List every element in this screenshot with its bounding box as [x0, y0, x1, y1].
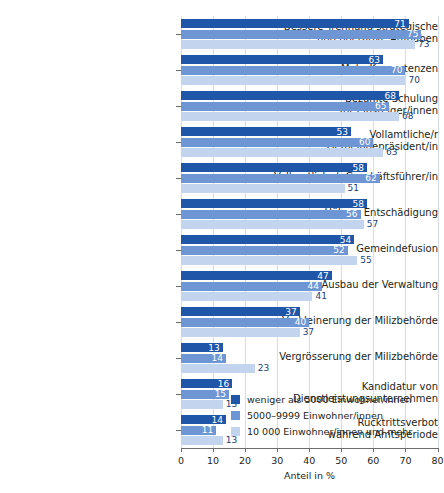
x-axis-tick: [309, 448, 310, 452]
legend-item[interactable]: weniger als 5000 Einwohner/innen: [231, 391, 412, 407]
bar: [181, 40, 415, 49]
bar: [181, 307, 300, 316]
bar-value-label: 60: [359, 138, 370, 147]
bar-value-label: 70: [408, 76, 419, 85]
bar: [181, 235, 354, 244]
bar-value-label: 58: [353, 200, 364, 209]
x-axis-tick: [181, 448, 182, 452]
bar-value-label: 23: [258, 364, 269, 373]
bar: [181, 55, 383, 64]
bar-value-label: 14: [211, 354, 222, 363]
plot-area: 7175736370706865685360635862515856575452…: [181, 16, 437, 448]
bar: [181, 19, 409, 28]
bar: [181, 436, 223, 445]
bar: [181, 400, 223, 409]
bar: [181, 127, 351, 136]
bar-value-label: 68: [385, 92, 396, 101]
legend-swatch-icon: [231, 395, 240, 404]
x-axis-tick: [277, 448, 278, 452]
bar-value-label: 14: [211, 416, 222, 425]
bar: [181, 138, 373, 147]
bar: [181, 364, 255, 373]
x-axis-title: Anteil in %: [181, 470, 438, 481]
legend-label: 5000–9999 Einwohner/innen: [247, 410, 383, 421]
bar: [181, 210, 361, 219]
bar-value-label: 51: [348, 184, 359, 193]
bar: [181, 246, 348, 255]
legend-item[interactable]: 10 000 Einwohner/innen und mehr: [231, 423, 412, 439]
legend: weniger als 5000 Einwohner/innen5000–999…: [231, 391, 412, 439]
bar-value-label: 54: [340, 236, 351, 245]
bar-value-label: 57: [367, 220, 378, 229]
bar-value-label: 41: [315, 292, 326, 301]
legend-swatch-icon: [231, 427, 240, 436]
bar-value-label: 53: [336, 128, 347, 137]
x-axis-tick: [438, 448, 439, 452]
bar-value-label: 56: [346, 210, 357, 219]
bar: [181, 112, 399, 121]
bar: [181, 199, 367, 208]
bar: [181, 328, 300, 337]
x-axis-tick-label: 40: [303, 455, 315, 466]
bar-value-label: 55: [360, 256, 371, 265]
x-axis-tick-label: 30: [271, 455, 283, 466]
bar: [181, 148, 383, 157]
bar-value-label: 58: [353, 164, 364, 173]
bar: [181, 292, 312, 301]
bar-value-label: 63: [386, 148, 397, 157]
bar: [181, 174, 380, 183]
bar-value-label: 52: [333, 246, 344, 255]
x-axis-tick: [373, 448, 374, 452]
bar-value-label: 13: [208, 344, 219, 353]
bar-value-label: 73: [418, 40, 429, 49]
bar-value-label: 68: [402, 112, 413, 121]
legend-swatch-icon: [231, 411, 240, 420]
bar-value-label: 11: [202, 426, 213, 435]
bar: [181, 66, 405, 75]
x-axis-tick-label: 50: [335, 455, 347, 466]
x-axis-tick-label: 0: [178, 455, 184, 466]
x-axis-tick-label: 10: [207, 455, 219, 466]
x-axis-tick-label: 60: [367, 455, 379, 466]
legend-item[interactable]: 5000–9999 Einwohner/innen: [231, 407, 412, 423]
bar: [181, 256, 357, 265]
x-axis-tick-label: 20: [239, 455, 251, 466]
legend-label: weniger als 5000 Einwohner/innen: [247, 394, 412, 405]
bar: [181, 318, 309, 327]
bar-value-label: 40: [295, 318, 306, 327]
x-axis-tick-label: 80: [431, 455, 443, 466]
bar: [181, 271, 332, 280]
bar-value-label: 71: [394, 20, 405, 29]
bar-value-label: 62: [365, 174, 376, 183]
bar: [181, 102, 389, 111]
bar-value-label: 63: [369, 56, 380, 65]
bar-value-label: 44: [308, 282, 319, 291]
bar: [181, 30, 421, 39]
bar: [181, 220, 364, 229]
bar-value-label: 15: [215, 390, 226, 399]
bar: [181, 282, 322, 291]
bar: [181, 76, 405, 85]
bar: [181, 184, 345, 193]
x-axis-tick: [213, 448, 214, 452]
legend-label: 10 000 Einwohner/innen und mehr: [247, 426, 412, 437]
x-axis-tick: [341, 448, 342, 452]
bar-value-label: 70: [391, 66, 402, 75]
bar-value-label: 37: [303, 328, 314, 337]
x-axis-tick: [405, 448, 406, 452]
x-axis-tick-label: 70: [399, 455, 411, 466]
bar-value-label: 75: [407, 30, 418, 39]
x-axis-tick: [245, 448, 246, 452]
bar: [181, 91, 399, 100]
bar: [181, 163, 367, 172]
bar-value-label: 37: [285, 308, 296, 317]
bar-value-label: 65: [375, 102, 386, 111]
bar-value-label: 16: [218, 380, 229, 389]
bar-value-label: 47: [317, 272, 328, 281]
